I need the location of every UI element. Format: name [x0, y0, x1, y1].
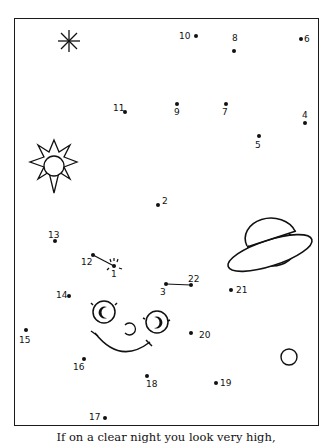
dot-17 [103, 416, 107, 420]
dot-label-16: 16 [73, 363, 84, 372]
moon-face-icon [91, 301, 170, 352]
dot-14 [67, 294, 71, 298]
dot-label-5: 5 [255, 141, 261, 150]
dot-21 [229, 288, 233, 292]
puzzle-caption: If on a clear night you look very high, [0, 430, 332, 444]
dot-label-6: 6 [304, 35, 310, 44]
dot-10 [194, 34, 198, 38]
dot-4 [303, 121, 307, 125]
dot-label-1: 1 [111, 270, 117, 279]
dot-label-21: 21 [236, 286, 247, 295]
dot-label-10: 10 [179, 32, 190, 41]
dot-label-3: 3 [160, 288, 166, 297]
dot-2 [156, 203, 160, 207]
sun-icon [30, 140, 77, 193]
dot-7 [224, 102, 228, 106]
dot-label-2: 2 [162, 197, 168, 206]
dot-20 [189, 331, 193, 335]
dot-1 [112, 264, 116, 268]
dot-9 [175, 102, 179, 106]
dot-label-7: 7 [222, 108, 228, 117]
dot-label-22: 22 [188, 275, 199, 284]
dot-18 [145, 374, 149, 378]
dot-19 [214, 381, 218, 385]
dot-label-17: 17 [89, 413, 100, 422]
dot-8 [232, 49, 236, 53]
dot-label-8: 8 [232, 34, 238, 43]
ringed-planet-icon [224, 218, 316, 279]
dot-label-13: 13 [48, 231, 59, 240]
dot-label-14: 14 [56, 291, 67, 300]
dot-label-12: 12 [81, 258, 92, 267]
dot-6 [299, 37, 303, 41]
dot-label-20: 20 [199, 331, 210, 340]
puzzle-artwork [0, 0, 332, 447]
dot-15 [24, 328, 28, 332]
dot-5 [257, 134, 261, 138]
dot-label-11: 11 [113, 104, 124, 113]
pre-drawn-lines [93, 255, 191, 285]
dot-label-18: 18 [146, 380, 157, 389]
dot-16 [82, 357, 86, 361]
dot-3 [164, 282, 168, 286]
dot-label-15: 15 [19, 336, 30, 345]
asterisk-star-icon [58, 30, 80, 52]
dot-label-19: 19 [220, 379, 231, 388]
dot-label-4: 4 [302, 111, 308, 120]
small-moon-circle-icon [281, 349, 297, 365]
dot-label-9: 9 [174, 108, 180, 117]
